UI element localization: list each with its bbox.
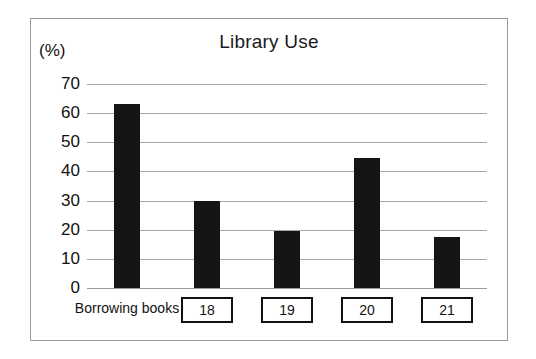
x-axis-label-18: 18 [181, 297, 233, 323]
gridline-70: 70 [87, 84, 487, 85]
chart-frame: Library Use (%) 010203040506070 Borrowin… [30, 18, 508, 341]
y-tick-label-70: 70 [61, 74, 80, 94]
gridline-50: 50 [87, 142, 487, 143]
y-tick-label-10: 10 [61, 249, 80, 269]
bar-20 [354, 158, 380, 288]
gridline-60: 60 [87, 113, 487, 114]
gridline-40: 40 [87, 171, 487, 172]
x-axis-labels: Borrowing books18192021 [87, 292, 487, 332]
plot-area: 010203040506070 [87, 84, 487, 288]
y-tick-label-20: 20 [61, 220, 80, 240]
bar-borrowing-books [114, 104, 140, 288]
gridline-0: 0 [87, 288, 487, 289]
y-tick-label-0: 0 [71, 278, 80, 298]
chart-title: Library Use [31, 31, 507, 53]
gridline-30: 30 [87, 201, 487, 202]
x-axis-label-20: 20 [341, 297, 393, 323]
bar-18 [194, 201, 220, 288]
y-tick-label-40: 40 [61, 161, 80, 181]
x-axis-label-19: 19 [261, 297, 313, 323]
y-tick-label-30: 30 [61, 191, 80, 211]
bar-19 [274, 231, 300, 288]
y-tick-label-50: 50 [61, 132, 80, 152]
bar-21 [434, 237, 460, 288]
y-axis-unit-label: (%) [39, 41, 65, 61]
x-axis-label-21: 21 [421, 297, 473, 323]
x-axis-label-borrowing-books: Borrowing books [75, 300, 179, 316]
y-tick-label-60: 60 [61, 103, 80, 123]
